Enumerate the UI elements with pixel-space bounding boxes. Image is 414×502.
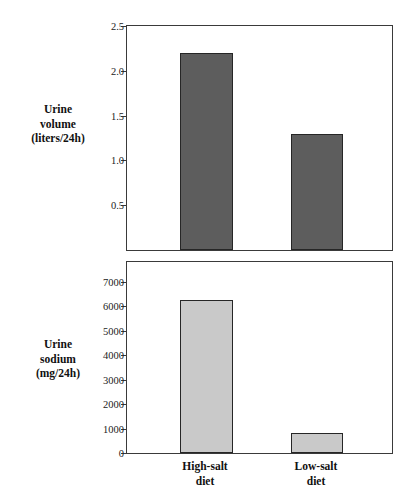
- volume-axis-title-line-2: volume: [6, 117, 110, 132]
- y-tick-label: 2000: [103, 399, 124, 410]
- category-label-low-salt-diet-line-2: diet: [256, 474, 376, 489]
- bar-urine-volume-0: [180, 53, 233, 250]
- y-tick-label: 2.0: [111, 65, 124, 76]
- y-tick-label: 4000: [103, 350, 124, 361]
- urine-volume-plot-area: 0.51.01.52.02.5: [127, 26, 392, 250]
- y-tick-label: 2.5: [111, 21, 124, 32]
- category-label-low-salt-diet: Low-salt diet: [256, 459, 376, 488]
- urine-sodium-plot-area: 01000200030004000500060007000: [127, 262, 392, 453]
- y-tick-label: 0.5: [111, 200, 124, 211]
- figure-root: Urine volume (liters/24h) Urine sodium (…: [0, 0, 414, 502]
- y-tick-label: 5000: [103, 325, 124, 336]
- bar-urine-sodium-1: [291, 433, 344, 453]
- sodium-axis-title-line-3: (mg/24h): [6, 366, 110, 381]
- category-label-high-salt-diet: High-salt diet: [145, 459, 265, 488]
- y-tick-label: 6000: [103, 301, 124, 312]
- bar-urine-volume-1: [291, 134, 344, 250]
- y-tick-label: 7000: [103, 276, 124, 287]
- volume-axis-title-line-1: Urine: [6, 102, 110, 117]
- y-tick-label: 1.5: [111, 110, 124, 121]
- volume-axis-title: Urine volume (liters/24h): [6, 102, 110, 146]
- sodium-axis-title-line-1: Urine: [6, 337, 110, 352]
- y-tick-label: 1000: [103, 423, 124, 434]
- urine-volume-chart-panel: 0.51.01.52.02.5: [126, 25, 393, 251]
- urine-sodium-chart-panel: 01000200030004000500060007000: [126, 261, 393, 454]
- category-label-low-salt-diet-line-1: Low-salt: [256, 459, 376, 474]
- sodium-axis-title-line-2: sodium: [6, 352, 110, 367]
- category-label-high-salt-diet-line-1: High-salt: [145, 459, 265, 474]
- y-tick-label: 1.0: [111, 155, 124, 166]
- volume-axis-title-line-3: (liters/24h): [6, 131, 110, 146]
- y-tick-label: 3000: [103, 374, 124, 385]
- y-tick-label: 0: [119, 448, 124, 459]
- bar-urine-sodium-0: [180, 300, 233, 453]
- category-label-high-salt-diet-line-2: diet: [145, 474, 265, 489]
- sodium-axis-title: Urine sodium (mg/24h): [6, 337, 110, 381]
